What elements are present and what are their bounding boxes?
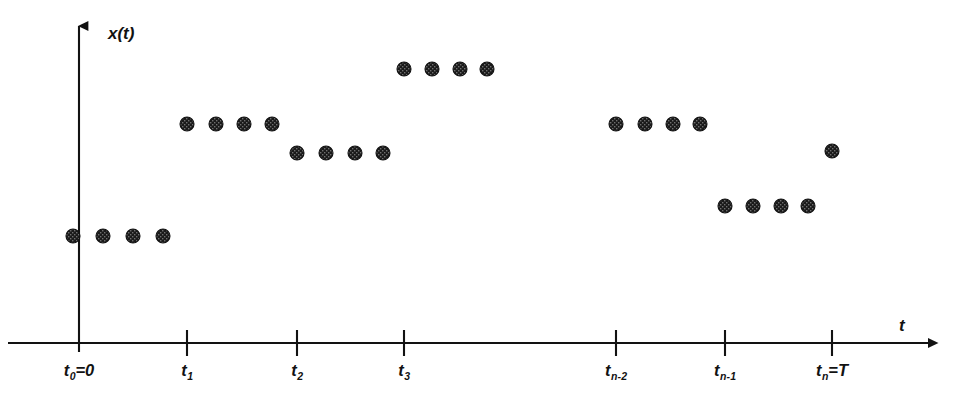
tick-label-t0: t0=0: [64, 362, 95, 379]
data-points-group: [66, 62, 839, 243]
tick-label-tn-1: tn-1: [714, 362, 736, 379]
tick-label-tn-2: tn-2: [605, 362, 627, 379]
tick-label-t3: t3: [398, 362, 410, 379]
x-axis-label: t: [899, 317, 905, 334]
y-axis-label: x(t): [108, 25, 134, 42]
signal-plot: [0, 0, 953, 418]
tick-label-t2: t2: [291, 362, 303, 379]
tick-label-t1: t1: [181, 362, 193, 379]
sample-group-tn-2: [609, 117, 707, 131]
sample-group-t3: [397, 62, 494, 76]
sample-group-t0: [66, 229, 170, 243]
sample-group-tn-1: [718, 199, 815, 213]
tick-label-tn: tn=T: [816, 362, 848, 379]
sample-group-t1: [180, 117, 279, 131]
figure-canvas: x(t) t t0=0t1t2t3tn-2tn-1tn=T: [0, 0, 953, 418]
axes-group: [8, 26, 929, 352]
sample-group-t2: [290, 146, 390, 160]
sample-group-tn: [825, 144, 839, 158]
